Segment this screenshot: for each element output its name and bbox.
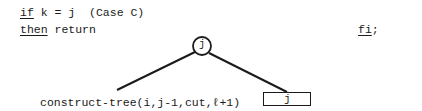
left-edge	[117, 52, 195, 90]
right-child-label: j	[284, 94, 291, 105]
tree-diagram	[0, 0, 422, 111]
root-node-label: j	[199, 40, 205, 50]
right-edge	[209, 53, 287, 92]
left-child-call: construct-tree(i,j-1,cut,ℓ+1)	[40, 96, 240, 109]
